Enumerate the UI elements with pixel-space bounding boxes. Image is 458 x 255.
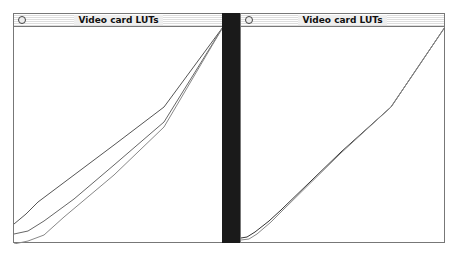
lut-plot <box>14 27 223 242</box>
lut-window-right: Video card LUTs <box>240 13 445 243</box>
lut-curve-2 <box>14 27 223 234</box>
lut-plot <box>241 27 444 242</box>
lut-curve-1 <box>14 27 223 224</box>
window-title: Video card LUTs <box>298 15 386 25</box>
window-separator <box>222 13 240 243</box>
lut-curve-1 <box>241 27 445 238</box>
title-bar[interactable]: Video card LUTs <box>14 14 223 27</box>
lut-curve-2 <box>241 27 445 240</box>
lut-curve-3 <box>14 27 223 244</box>
window-title: Video card LUTs <box>74 15 162 25</box>
title-bar[interactable]: Video card LUTs <box>241 14 444 27</box>
lut-window-left: Video card LUTs <box>13 13 223 243</box>
